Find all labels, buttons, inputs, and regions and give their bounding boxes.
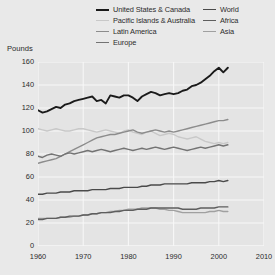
legend-item-united-states-canada: United States & Canada xyxy=(96,4,195,15)
plot-area xyxy=(38,62,264,246)
x-tick-label: 2010 xyxy=(244,252,275,261)
y-tick-label: 0 xyxy=(0,242,34,250)
x-tick-label: 1980 xyxy=(108,252,148,261)
y-tick-label: 60 xyxy=(0,173,34,181)
series-line xyxy=(38,68,228,113)
x-tick-label: 1990 xyxy=(154,252,194,261)
legend-item-africa: Africa xyxy=(203,15,239,26)
y-tick-label: 40 xyxy=(0,196,34,204)
legend-swatch-latin-america xyxy=(96,31,109,32)
legend-label-africa: Africa xyxy=(220,15,238,26)
series-line xyxy=(38,145,228,158)
legend-column-right: World Africa Asia xyxy=(203,4,239,37)
x-tick-label: 2000 xyxy=(199,252,239,261)
y-tick-label: 100 xyxy=(0,127,34,135)
legend-item-pacific-islands-australia: Pacific Islands & Australia xyxy=(96,15,195,26)
series-line xyxy=(38,120,228,164)
legend-label-asia: Asia xyxy=(220,26,234,37)
legend-swatch-united-states-canada xyxy=(96,9,109,11)
y-axis-ticks: 020406080100120140160 xyxy=(0,0,34,275)
legend-swatch-asia xyxy=(203,31,216,32)
legend-swatch-africa xyxy=(203,20,216,21)
legend-label-latin-america: Latin America xyxy=(113,26,156,37)
y-tick-label: 120 xyxy=(0,104,34,112)
y-tick-label: 160 xyxy=(0,58,34,66)
legend-column-left: United States & Canada Pacific Islands &… xyxy=(96,4,195,48)
x-axis-ticks: 196019701980199020002010 xyxy=(38,252,264,264)
legend-label-europe: Europe xyxy=(113,37,136,48)
chart-legend: United States & Canada Pacific Islands &… xyxy=(96,4,272,50)
y-tick-label: 140 xyxy=(0,81,34,89)
plot-lines xyxy=(38,62,264,246)
legend-item-asia: Asia xyxy=(203,26,239,37)
legend-item-europe: Europe xyxy=(96,37,195,48)
chart-figure: United States & Canada Pacific Islands &… xyxy=(0,0,275,275)
series-line xyxy=(38,180,228,194)
legend-swatch-europe xyxy=(96,42,109,43)
legend-label-united-states-canada: United States & Canada xyxy=(113,4,190,15)
legend-label-pacific-islands-australia: Pacific Islands & Australia xyxy=(113,15,195,26)
legend-label-world: World xyxy=(220,4,239,15)
legend-swatch-world xyxy=(203,9,216,10)
legend-swatch-pacific-islands-australia xyxy=(96,20,109,21)
legend-item-world: World xyxy=(203,4,239,15)
y-tick-label: 20 xyxy=(0,219,34,227)
y-tick-label: 80 xyxy=(0,150,34,158)
x-tick-label: 1970 xyxy=(63,252,103,261)
x-tick-label: 1960 xyxy=(18,252,58,261)
legend-item-latin-america: Latin America xyxy=(96,26,195,37)
